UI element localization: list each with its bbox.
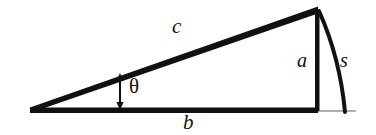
vertical-line-a <box>315 10 320 111</box>
label-opposite-a: a <box>297 50 307 70</box>
label-arc-s: s <box>340 50 348 70</box>
label-base-b: b <box>183 112 194 133</box>
triangle-diagram: c b a s θ <box>0 0 376 135</box>
label-angle-theta: θ <box>129 76 139 97</box>
base-line-b <box>30 108 318 114</box>
label-hypotenuse-c: c <box>172 16 181 37</box>
